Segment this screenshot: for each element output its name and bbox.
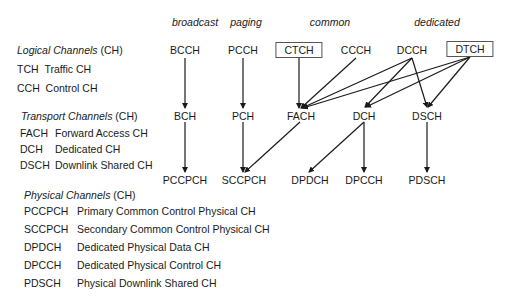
node-ccch: CCCH <box>341 44 371 56</box>
node-bcch: BCCH <box>170 44 200 56</box>
arrow-fach-sccpch <box>245 122 300 172</box>
arrow-dcch-fach <box>302 58 412 108</box>
node-pch: PCH <box>232 110 254 122</box>
node-bch: BCH <box>174 110 196 122</box>
legend-item: DPCCHDedicated Physical Control CH <box>24 259 221 271</box>
legend-item: PCCPCHPrimary Common Control Physical CH <box>24 205 256 217</box>
legend-item: DSCHDownlink Shared CH <box>20 159 152 171</box>
arrow-dtch-fach <box>303 57 470 108</box>
node-dch: DCH <box>353 110 376 122</box>
arrow-dcch-dsch <box>412 58 427 107</box>
node-pdsch: PDSCH <box>409 174 446 186</box>
node-sccpch: SCCPCH <box>222 174 266 186</box>
legend-item: DCHDedicated CH <box>20 143 120 155</box>
legend-item: FACHForward Access CH <box>20 127 148 139</box>
node-dtch: DTCH <box>446 41 493 57</box>
node-pcch: PCCH <box>228 44 258 56</box>
legend-item: CCH Control CH <box>17 82 98 94</box>
arrow-dtch-dch <box>366 57 470 107</box>
column-header-broadcast: broadcast <box>172 16 218 28</box>
node-dpcch: DPCCH <box>345 174 382 186</box>
node-fach: FACH <box>287 110 315 122</box>
legend-item: PDSCHPhysical Downlink Shared CH <box>24 277 216 289</box>
node-dsch: DSCH <box>412 110 442 122</box>
column-header-paging: paging <box>230 16 262 28</box>
node-pccpch: PCCPCH <box>163 174 207 186</box>
column-header-dedicated: dedicated <box>414 16 460 28</box>
legend-item: DPDCHDedicated Physical Data CH <box>24 241 209 253</box>
arrow-dch-dpdch <box>309 122 364 172</box>
node-dpdch: DPDCH <box>291 174 328 186</box>
legend-item: TCH Traffic CH <box>17 63 91 75</box>
arrow-dtch-dsch <box>428 57 470 107</box>
logical-channels-title: Logical Channels (CH) <box>17 44 123 56</box>
legend-item: SCCPCHSecondary Common Control Physical … <box>24 223 270 235</box>
column-header-common: common <box>310 16 350 28</box>
node-ctch: CTCH <box>275 42 322 58</box>
transport-channels-title: Transport Channels (CH) <box>21 110 138 122</box>
physical-channels-title: Physical Channels (CH) <box>24 189 135 201</box>
node-dcch: DCCH <box>397 44 427 56</box>
